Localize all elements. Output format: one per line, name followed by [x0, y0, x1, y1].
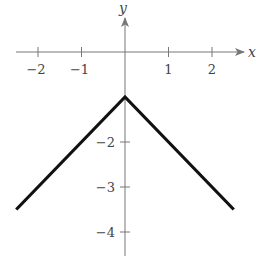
x-tick-label: 2 — [208, 62, 216, 77]
x-axis: −2−112 x — [16, 44, 256, 77]
y-axis: −2−3−4 y — [96, 0, 130, 256]
function-graph: −2−112 x −2−3−4 y — [0, 0, 260, 267]
y-tick-label: −2 — [96, 135, 115, 150]
y-axis-label: y — [118, 0, 128, 16]
x-axis-label: x — [248, 44, 256, 60]
x-tick-label: 1 — [164, 62, 172, 77]
x-tick-label: −2 — [26, 62, 45, 77]
y-tick-label: −4 — [96, 225, 115, 240]
x-tick-label: −1 — [70, 62, 89, 77]
y-tick-label: −3 — [96, 180, 115, 195]
